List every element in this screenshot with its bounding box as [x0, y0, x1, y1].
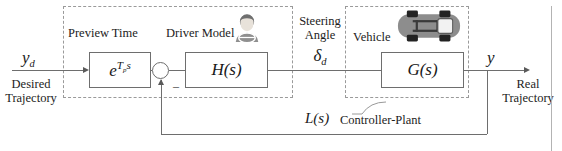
sum-to-driver-line [169, 70, 185, 71]
feedback-arrowhead [158, 79, 164, 85]
car-top-view-icon [393, 9, 465, 47]
desired-trajectory-label: Desired Trajectory [0, 77, 62, 106]
driver-model-block: H(s) [185, 52, 268, 88]
block-diagram-figure: yd Desired Trajectory Preview Time eTps … [0, 0, 562, 151]
steering-angle-symbol: δd [295, 46, 345, 67]
controller-plant-label: Controller-Plant [340, 113, 421, 127]
feedback-bottom-line [161, 134, 487, 135]
summing-junction-minus-sign: – [173, 80, 179, 92]
preview-time-block: eTps [89, 52, 151, 88]
feedback-transfer-function-label: L(s) [305, 110, 329, 127]
figure-right-border [551, 6, 552, 151]
summing-junction [152, 62, 169, 79]
preview-time-expression: eTps [109, 59, 131, 81]
feedback-rise-line [161, 80, 162, 134]
output-signal-label: y [487, 48, 495, 68]
output-signal-line [464, 70, 526, 71]
driver-to-vehicle-line [268, 70, 381, 71]
input-signal-line [12, 70, 84, 71]
driver-model-expression: H(s) [211, 60, 241, 80]
feedback-takeoff-line [487, 70, 488, 134]
driver-model-label: Driver Model [166, 26, 234, 40]
input-signal-label: yd [22, 48, 35, 69]
output-arrowhead [524, 67, 530, 73]
driver-avatar-icon [232, 12, 262, 46]
preview-time-label: Preview Time [68, 26, 138, 40]
vehicle-label: Vehicle [353, 30, 390, 44]
vehicle-block: G(s) [381, 52, 464, 88]
steering-angle-label: Steering Angle [295, 14, 345, 43]
vehicle-expression: G(s) [407, 60, 437, 80]
